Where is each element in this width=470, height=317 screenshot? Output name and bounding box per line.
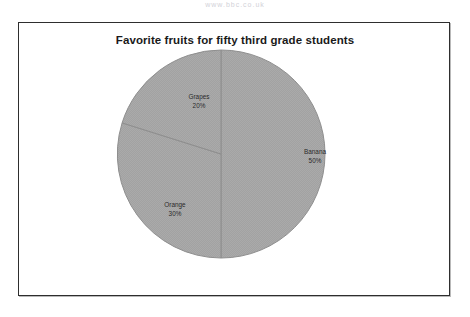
pie-label-banana: Banana 50% bbox=[285, 148, 345, 165]
page-watermark: www.bbc.co.uk bbox=[0, 0, 470, 9]
pie-label-banana-name: Banana bbox=[304, 148, 326, 155]
pie-label-banana-percent: 50% bbox=[285, 157, 345, 166]
pie-label-grapes-percent: 20% bbox=[169, 102, 229, 111]
pie-label-grapes: Grapes 20% bbox=[169, 93, 229, 110]
pie-label-orange-name: Orange bbox=[164, 201, 185, 208]
pie-label-orange: Orange 30% bbox=[145, 201, 205, 218]
pie-label-grapes-name: Grapes bbox=[189, 93, 210, 100]
chart-frame: Favorite fruits for fifty third grade st… bbox=[18, 22, 450, 296]
pie-label-orange-percent: 30% bbox=[145, 210, 205, 219]
pie-chart: Grapes 20% Banana 50% Orange 30% bbox=[19, 23, 451, 297]
